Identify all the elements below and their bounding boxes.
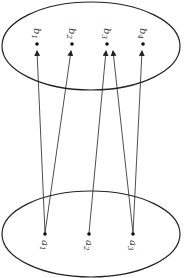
- svg-text:b4: b4: [136, 28, 149, 39]
- mapping-diagram: b1 b2 b3 b4 a1 a2 a3: [0, 0, 189, 278]
- svg-text:a2: a2: [82, 240, 95, 251]
- point-a2: [87, 232, 91, 236]
- point-b4: [141, 42, 145, 46]
- label-b3: b3: [100, 28, 113, 39]
- svg-text:a3: a3: [126, 240, 139, 251]
- label-b1: b1: [30, 28, 43, 39]
- arrow-a1-b1: [37, 51, 45, 233]
- codomain-points: [35, 42, 145, 46]
- label-a1: a1: [38, 240, 51, 250]
- svg-text:b2: b2: [65, 28, 78, 39]
- domain-set-ellipse: [2, 191, 180, 277]
- point-a1: [43, 232, 47, 236]
- svg-text:a1: a1: [38, 240, 51, 250]
- svg-text:b3: b3: [100, 28, 113, 39]
- point-b3: [105, 42, 109, 46]
- label-b4: b4: [136, 28, 149, 39]
- point-b2: [70, 42, 74, 46]
- arrow-a1-b2: [45, 51, 71, 233]
- svg-text:b1: b1: [30, 28, 43, 39]
- label-b2: b2: [65, 28, 78, 39]
- domain-points: [43, 232, 135, 236]
- label-a2: a2: [82, 240, 95, 251]
- label-a3: a3: [126, 240, 139, 251]
- arrow-a3-b3: [113, 51, 133, 233]
- arrow-a2-b3: [89, 51, 106, 233]
- point-b1: [35, 42, 39, 46]
- point-a3: [131, 232, 135, 236]
- arrows: [37, 51, 142, 233]
- codomain-set-ellipse: [2, 2, 180, 90]
- arrow-a3-b4: [133, 51, 142, 233]
